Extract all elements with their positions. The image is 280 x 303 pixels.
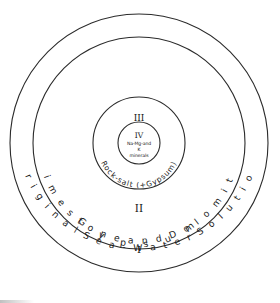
zone-1-numeral: I bbox=[137, 244, 141, 255]
zone-3-numeral: III bbox=[134, 113, 145, 123]
zone-4-numeral: IV bbox=[135, 131, 144, 140]
zone-2-numeral: II bbox=[135, 202, 143, 214]
core-label-line-1: Na-Mg-and bbox=[127, 141, 151, 146]
core-label-line-3: minerals bbox=[129, 153, 149, 158]
zonation-svg-canvas: O r i g i n a l S e a - W a t e r S o l … bbox=[0, 0, 280, 303]
evaporite-zonation-diagram: O r i g i n a l S e a - W a t e r S o l … bbox=[0, 0, 280, 303]
